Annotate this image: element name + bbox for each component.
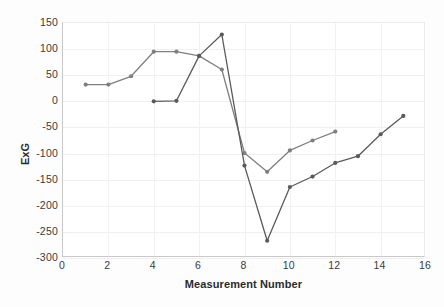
data-point-marker — [152, 50, 156, 54]
y-axis-tick-label: -50 — [12, 120, 58, 132]
series-line-series-2 — [154, 34, 404, 240]
data-point-marker — [152, 99, 156, 103]
data-point-marker — [333, 161, 337, 165]
data-point-marker — [401, 114, 405, 118]
data-point-marker — [197, 54, 201, 58]
y-axis-tick-label: -150 — [12, 173, 58, 185]
x-axis-tick-label: 0 — [42, 259, 82, 271]
data-point-marker — [242, 163, 246, 167]
x-axis-tick-labels: 0246810121416 — [62, 259, 425, 277]
x-axis-tick-label: 4 — [133, 259, 173, 271]
data-point-marker — [84, 83, 88, 87]
data-point-marker — [265, 239, 269, 243]
plot-area — [62, 22, 425, 257]
data-point-marker — [288, 148, 292, 152]
series-plot — [63, 23, 426, 258]
data-point-marker — [333, 130, 337, 134]
data-point-marker — [356, 154, 360, 158]
data-point-marker — [288, 185, 292, 189]
x-axis-tick-label: 16 — [405, 259, 444, 271]
x-axis-title: Measurement Number — [62, 278, 425, 290]
y-axis-tick-label: 100 — [12, 42, 58, 54]
y-axis-tick-label: 0 — [12, 94, 58, 106]
data-point-marker — [220, 67, 224, 71]
data-point-marker — [174, 99, 178, 103]
data-point-marker — [106, 83, 110, 87]
y-axis-tick-label: 150 — [12, 16, 58, 28]
chart-container: ExG 150100500-50-100-150-200-250-300 024… — [0, 0, 444, 307]
data-point-marker — [310, 174, 314, 178]
x-axis-tick-label: 14 — [360, 259, 400, 271]
x-axis-tick-label: 10 — [269, 259, 309, 271]
data-point-marker — [220, 32, 224, 36]
series-line-series-1 — [86, 52, 336, 172]
x-axis-tick-label: 2 — [87, 259, 127, 271]
x-axis-tick-label: 6 — [178, 259, 218, 271]
data-point-marker — [310, 138, 314, 142]
y-axis-tick-label: -200 — [12, 199, 58, 211]
y-axis-tick-labels: 150100500-50-100-150-200-250-300 — [0, 22, 58, 257]
y-axis-tick-label: -250 — [12, 225, 58, 237]
data-point-marker — [129, 74, 133, 78]
y-axis-tick-label: -100 — [12, 147, 58, 159]
x-axis-tick-label: 12 — [314, 259, 354, 271]
y-axis-tick-label: 50 — [12, 68, 58, 80]
data-point-marker — [379, 132, 383, 136]
data-point-marker — [265, 170, 269, 174]
x-axis-tick-label: 8 — [224, 259, 264, 271]
data-point-marker — [174, 50, 178, 54]
